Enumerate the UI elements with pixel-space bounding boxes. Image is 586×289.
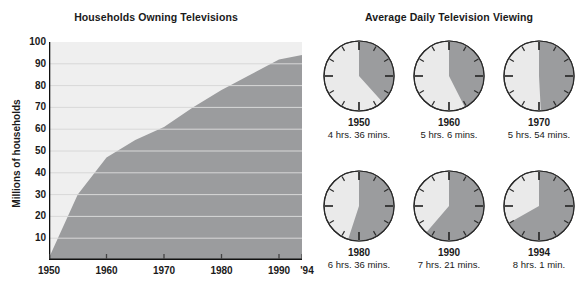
y-tick-label: 40 (18, 168, 46, 178)
area-chart-title: Households Owning Televisions (0, 11, 312, 23)
clock-time-label: 8 hrs. 1 min. (513, 259, 565, 270)
y-tick-label: 30 (18, 190, 46, 200)
clock-cell-1970: 19705 hrs. 54 mins. (496, 38, 582, 140)
x-tick-label: 1950 (38, 266, 60, 276)
clock-face-1990 (411, 168, 487, 244)
clock-row-top: 19504 hrs. 36 mins.19605 hrs. 6 mins.197… (314, 38, 584, 140)
average-daily-television-viewing-chart: Average Daily Television Viewing 19504 h… (312, 0, 586, 289)
clock-face-1950 (321, 38, 397, 114)
y-tick-label: 90 (18, 59, 46, 69)
clock-time-label: 6 hrs. 36 mins. (328, 259, 390, 270)
clock-cell-1960: 19605 hrs. 6 mins. (406, 38, 492, 140)
clock-time-label: 7 hrs. 21 mins. (418, 259, 480, 270)
clock-year-label: 1990 (438, 247, 460, 259)
clock-face-1970 (501, 38, 577, 114)
clock-year-label: 1994 (528, 247, 550, 259)
clock-year-label: 1970 (528, 117, 550, 129)
clock-cell-1980: 19806 hrs. 36 mins. (316, 168, 402, 270)
y-tick-label: 100 (18, 37, 46, 47)
clock-face-1980 (321, 168, 397, 244)
clock-time-label: 5 hrs. 54 mins. (508, 129, 570, 140)
clock-face-1960 (411, 38, 487, 114)
clock-year-label: 1980 (348, 247, 370, 259)
clock-cell-1950: 19504 hrs. 36 mins. (316, 38, 402, 140)
y-tick-label: 50 (18, 146, 46, 156)
y-axis-tick-labels: 102030405060708090100 (15, 42, 46, 260)
x-tick-label: 1970 (153, 266, 175, 276)
clock-cell-1990: 19907 hrs. 21 mins. (406, 168, 492, 270)
y-tick-label: 80 (18, 81, 46, 91)
area-plot-region (49, 42, 302, 260)
y-tick-label: 60 (18, 124, 46, 134)
y-tick-label: 10 (18, 233, 46, 243)
clock-year-label: 1960 (438, 117, 460, 129)
x-tick-label: 1990 (268, 266, 290, 276)
x-tick-label: 1980 (210, 266, 232, 276)
clock-chart-title: Average Daily Television Viewing (312, 11, 586, 23)
clock-row-bottom: 19806 hrs. 36 mins.19907 hrs. 21 mins.19… (314, 168, 584, 270)
clock-time-label: 4 hrs. 36 mins. (328, 129, 390, 140)
clock-face-1994 (501, 168, 577, 244)
y-tick-label: 20 (18, 211, 46, 221)
clock-time-label: 5 hrs. 6 mins. (420, 129, 477, 140)
households-owning-televisions-chart: Households Owning Televisions Millions o… (0, 0, 312, 289)
x-axis-tick-labels: 19501960197019801990'94 (20, 264, 310, 280)
area-plot-svg (49, 42, 302, 260)
clock-cell-1994: 19948 hrs. 1 min. (496, 168, 582, 270)
clock-year-label: 1950 (348, 117, 370, 129)
x-tick-label: 1960 (95, 266, 117, 276)
y-tick-label: 70 (18, 102, 46, 112)
